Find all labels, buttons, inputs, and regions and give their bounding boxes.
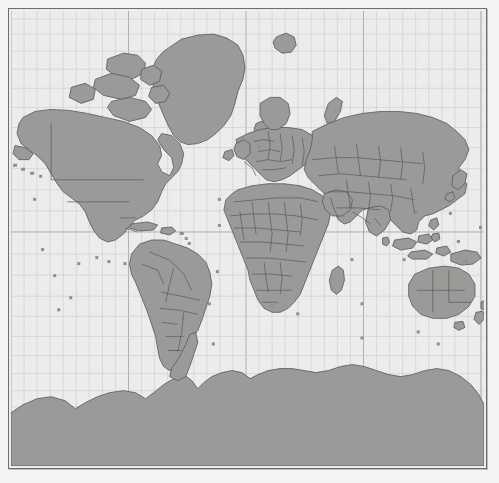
map-plate — [11, 11, 484, 466]
world-map-svg — [11, 11, 484, 466]
map-frame-border — [8, 8, 487, 469]
world-map-figure — [0, 0, 499, 483]
